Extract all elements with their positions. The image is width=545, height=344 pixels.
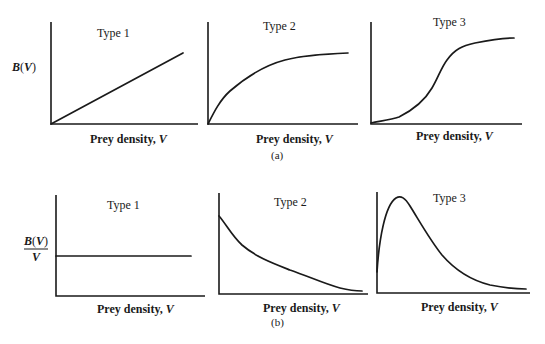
panel-a-type1-title: Type 1 xyxy=(97,26,130,40)
panel-a-type3-curve xyxy=(371,38,514,123)
panel-b-type2-xlabel: Prey density, V xyxy=(263,301,341,315)
panel-b-type3-curve xyxy=(377,197,526,289)
panel-b-type1-plot: Type 1 Prey density, V xyxy=(56,195,205,316)
functional-response-figure: B(V) Type 1 Prey density, V Type 2 Prey … xyxy=(0,0,545,344)
panel-a-type3-title: Type 3 xyxy=(433,15,466,29)
panel-a-type3-axes xyxy=(371,22,522,124)
panel-b-type3-plot: Type 3 Prey density, V xyxy=(377,191,530,314)
panel-b-type3-xlabel: Prey density, V xyxy=(421,300,499,314)
panel-b-label: (b) xyxy=(271,316,284,329)
panel-a-type2-xlabel: Prey density, V xyxy=(256,132,334,146)
panel-a-ylabel: B(V) xyxy=(11,60,36,74)
panel-b-type2-curve xyxy=(219,216,362,291)
svg-text:B(V): B(V) xyxy=(23,234,48,248)
svg-text:V: V xyxy=(32,250,41,264)
panel-a-type1-xlabel: Prey density, V xyxy=(90,132,168,146)
panel-a-type3-xlabel: Prey density, V xyxy=(416,129,494,143)
panel-b-ylabel: B(V) V xyxy=(23,234,48,264)
panel-a-type2-title: Type 2 xyxy=(263,19,296,33)
panel-a: B(V) Type 1 Prey density, V Type 2 Prey … xyxy=(11,15,522,162)
panel-b-type2-title: Type 2 xyxy=(274,195,307,209)
panel-b-type3-title: Type 3 xyxy=(433,191,466,205)
panel-b-type2-plot: Type 2 Prey density, V xyxy=(219,193,368,315)
panel-b: B(V) V Type 1 Prey density, V Type 2 Pre… xyxy=(23,191,530,329)
panel-a-label: (a) xyxy=(271,149,284,162)
panel-b-type1-title: Type 1 xyxy=(107,198,140,212)
panel-a-type1-plot: Type 1 Prey density, V xyxy=(51,22,198,146)
panel-a-type3-plot: Type 3 Prey density, V xyxy=(371,15,522,143)
panel-b-type3-axes xyxy=(377,192,530,293)
panel-a-type2-plot: Type 2 Prey density, V xyxy=(208,19,358,146)
panel-b-type1-xlabel: Prey density, V xyxy=(97,302,175,316)
panel-a-type2-curve xyxy=(208,53,348,124)
panel-a-type2-axes xyxy=(208,22,358,124)
panel-a-type1-curve xyxy=(51,53,183,124)
